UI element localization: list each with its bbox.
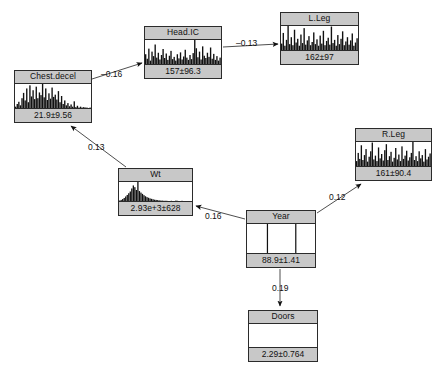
node-histogram-doors (249, 324, 317, 348)
node-value-wt: 2.93e+3±628 (119, 202, 192, 215)
node-title-l-leg: L.Leg (281, 13, 358, 26)
node-histogram-wt (119, 182, 192, 202)
edge-label-year-to-doors: 0.19 (272, 283, 289, 293)
node-chest-decel[interactable]: Chest.decel21.9±9.56 (14, 70, 92, 123)
node-value-head-ic: 157±96.3 (145, 65, 221, 78)
node-title-wt: Wt (119, 169, 192, 182)
node-title-r-leg: R.Leg (356, 129, 431, 142)
edge-label-chest-to-head: –0.16 (101, 69, 122, 79)
node-wt[interactable]: Wt2.93e+3±628 (118, 168, 193, 216)
edge-label-head-to-lleg: –0.13 (236, 38, 257, 48)
node-title-year: Year (247, 211, 315, 224)
node-value-doors: 2.29±0.764 (249, 348, 317, 361)
node-l-leg[interactable]: L.Leg162±97 (280, 12, 359, 65)
node-value-r-leg: 161±90.4 (356, 167, 431, 180)
node-title-head-ic: Head.IC (145, 27, 221, 40)
network-diagram-canvas: Chest.decel21.9±9.56Head.IC157±96.3L.Leg… (0, 0, 439, 375)
node-histogram-year (247, 224, 315, 254)
node-year[interactable]: Year88.9±1.41 (246, 210, 316, 268)
node-histogram-chest-decel (15, 84, 91, 109)
node-doors[interactable]: Doors2.29±0.764 (248, 310, 318, 362)
node-value-chest-decel: 21.9±9.56 (15, 109, 91, 122)
node-histogram-l-leg (281, 26, 358, 51)
node-value-year: 88.9±1.41 (247, 254, 315, 267)
node-value-l-leg: 162±97 (281, 51, 358, 64)
edge-label-year-to-wt: 0.16 (205, 211, 222, 221)
node-histogram-r-leg (356, 142, 431, 167)
edge-label-year-to-rleg: 0.12 (329, 192, 346, 202)
edge-label-wt-to-chest: 0.13 (88, 142, 105, 152)
node-title-chest-decel: Chest.decel (15, 71, 91, 84)
node-head-ic[interactable]: Head.IC157±96.3 (144, 26, 222, 79)
node-title-doors: Doors (249, 311, 317, 324)
node-histogram-head-ic (145, 40, 221, 65)
node-r-leg[interactable]: R.Leg161±90.4 (355, 128, 432, 181)
